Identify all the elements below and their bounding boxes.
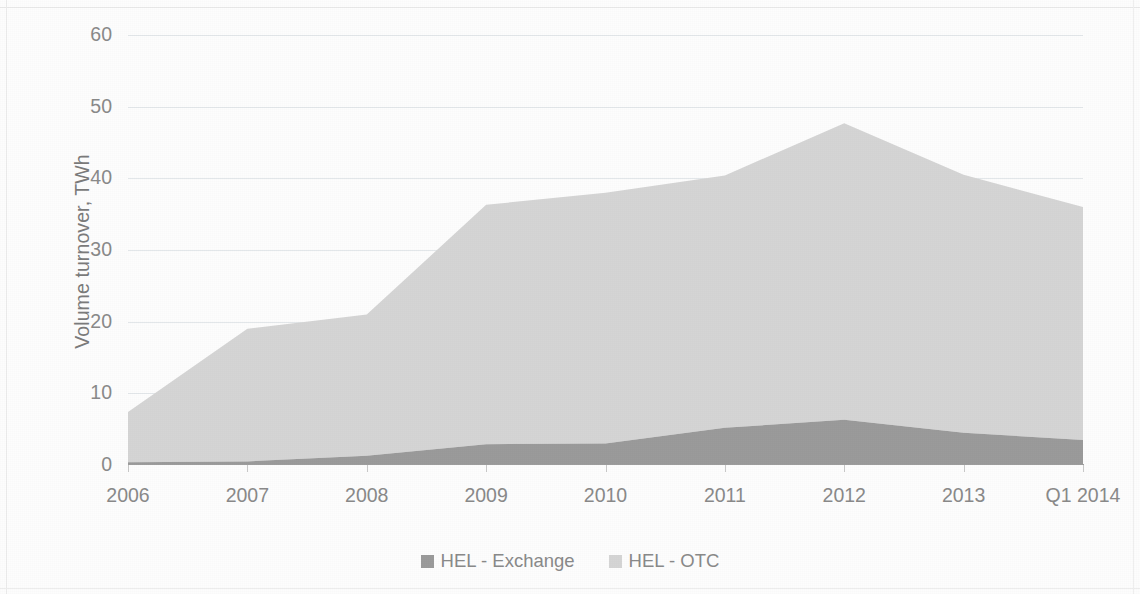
x-axis-tick-mark [964,465,965,472]
x-axis-tick-label: 2010 [584,484,627,507]
x-axis-tick-label: 2013 [942,484,985,507]
y-axis-tick-label: 30 [66,240,112,260]
x-axis-tick-label: 2007 [226,484,269,507]
x-axis-tick-mark [128,465,129,472]
x-axis-tick-mark [247,465,248,472]
area-series-hel-otc [128,123,1083,462]
y-axis-tick-label: 40 [66,168,112,188]
chart-legend: HEL - ExchangeHEL - OTC [0,550,1140,572]
legend-item-label: HEL - OTC [629,550,720,572]
x-axis-tick-mark [844,465,845,472]
x-axis-tick-label: Q1 2014 [1046,484,1121,507]
chart-figure: Volume turnover, TWh 0102030405060 20062… [0,0,1140,594]
legend-item[interactable]: HEL - OTC [609,550,720,572]
scan-edge-top [0,7,1140,8]
scan-edge-bottom [0,588,1140,589]
area-series-group [128,35,1083,465]
y-axis-tick-label: 0 [66,455,112,475]
y-axis-tick-label: 20 [66,312,112,332]
x-axis-tick-mark [1083,465,1084,472]
x-axis-tick-label: 2006 [106,484,149,507]
x-axis-tick-label: 2011 [704,484,746,507]
x-axis-tick-mark [367,465,368,472]
x-axis-tick-label: 2012 [823,484,866,507]
legend-item[interactable]: HEL - Exchange [421,550,575,572]
plot-area [128,35,1083,465]
x-axis-tick-mark [725,465,726,472]
x-axis-tick-mark [606,465,607,472]
scan-edge-left [6,0,7,594]
x-axis-tick-label: 2008 [345,484,388,507]
x-axis-tick-label: 2009 [464,484,507,507]
scan-edge-right [1133,0,1134,594]
y-axis-tick-labels: 0102030405060 [66,0,112,594]
legend-item-label: HEL - Exchange [441,550,575,572]
y-axis-tick-label: 50 [66,97,112,117]
x-axis-tick-mark [486,465,487,472]
y-axis-tick-label: 60 [66,25,112,45]
square-swatch-icon [421,555,434,568]
y-axis-tick-label: 10 [66,383,112,403]
square-swatch-icon [609,555,622,568]
